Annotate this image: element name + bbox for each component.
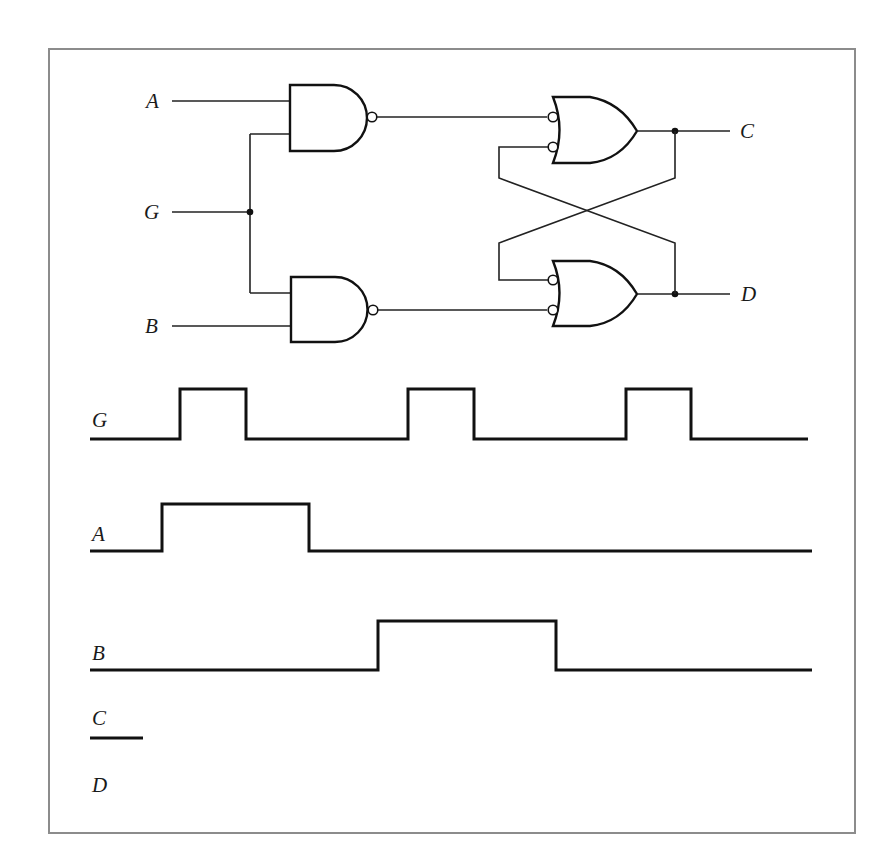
junction-dot-g xyxy=(247,209,254,216)
input-label-g: G xyxy=(144,200,159,224)
timing-label-a: A xyxy=(90,522,105,546)
waveform-b xyxy=(90,621,812,670)
inversion-bubble xyxy=(368,305,378,315)
inversion-bubble xyxy=(548,305,558,315)
or-gate-bottom xyxy=(548,261,637,326)
timing-label-c: C xyxy=(92,706,107,730)
inversion-bubble xyxy=(548,112,558,122)
output-label-d: D xyxy=(740,282,756,306)
inversion-bubble xyxy=(548,142,558,152)
or-gate-top xyxy=(548,97,637,163)
timing-diagram: G A B C D xyxy=(90,389,812,797)
nand-gate-top xyxy=(290,85,377,151)
timing-label-g: G xyxy=(92,408,107,432)
waveform-g xyxy=(90,389,808,439)
logic-diagram: A G B C xyxy=(0,0,886,863)
feedback-wires xyxy=(499,128,730,298)
inversion-bubble xyxy=(367,112,377,122)
input-label-a: A xyxy=(144,89,159,113)
inversion-bubble xyxy=(548,275,558,285)
input-wires xyxy=(172,101,291,326)
output-label-c: C xyxy=(740,119,755,143)
nand-gate-bottom xyxy=(291,277,378,342)
waveform-a xyxy=(90,504,812,551)
timing-label-b: B xyxy=(92,641,105,665)
timing-label-d: D xyxy=(91,773,107,797)
input-label-b: B xyxy=(145,314,158,338)
